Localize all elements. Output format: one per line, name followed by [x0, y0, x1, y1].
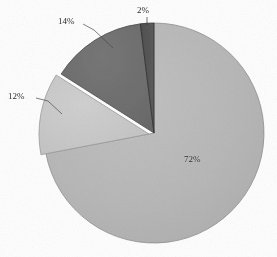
pie-label-12: 12% — [8, 92, 25, 101]
pie-label-72: 72% — [184, 155, 201, 164]
pie-label-14: 14% — [58, 17, 75, 26]
pie-chart-figure: 2% 14% 12% 72% — [0, 0, 277, 257]
pie-label-2: 2% — [137, 6, 149, 15]
pie-chart-canvas — [0, 0, 277, 257]
